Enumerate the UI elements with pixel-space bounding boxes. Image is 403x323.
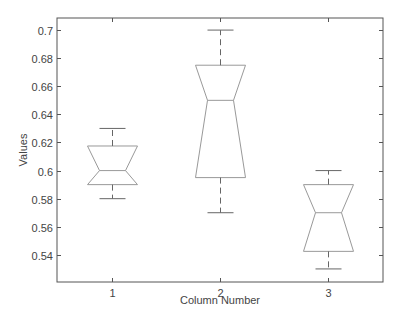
y-axis-ticks: 0.540.560.580.60.620.640.660.680.7 bbox=[32, 25, 383, 262]
y-tick-label: 0.6 bbox=[38, 166, 53, 178]
axes-frame bbox=[57, 18, 383, 282]
plot-area bbox=[57, 18, 383, 282]
box-1 bbox=[88, 128, 138, 198]
y-tick-label: 0.56 bbox=[32, 222, 53, 234]
y-tick-label: 0.54 bbox=[32, 250, 53, 262]
box-3 bbox=[304, 171, 354, 269]
y-axis-label: Values bbox=[17, 133, 29, 166]
x-axis-label: Column Number bbox=[180, 294, 260, 306]
y-tick-label: 0.64 bbox=[32, 109, 53, 121]
y-tick-label: 0.68 bbox=[32, 53, 53, 65]
box-2 bbox=[196, 30, 246, 213]
y-tick-label: 0.58 bbox=[32, 194, 53, 206]
boxplot-chart: 123 0.540.560.580.60.620.640.660.680.7 C… bbox=[0, 0, 403, 323]
y-tick-label: 0.66 bbox=[32, 81, 53, 93]
notched-box bbox=[196, 65, 246, 177]
y-tick-label: 0.62 bbox=[32, 137, 53, 149]
x-tick-label: 1 bbox=[109, 287, 115, 299]
x-tick-label: 3 bbox=[325, 287, 331, 299]
notched-box bbox=[88, 146, 138, 185]
y-tick-label: 0.7 bbox=[38, 25, 53, 37]
notched-box bbox=[304, 185, 354, 252]
